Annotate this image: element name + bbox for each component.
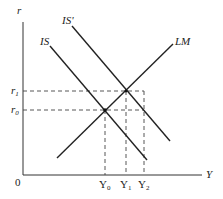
x-axis-label: Y [206,168,214,180]
is-label: IS [39,35,50,47]
y2-label: Y2 [138,178,150,192]
lm-label: LM [174,35,191,47]
origin-label: 0 [15,176,21,188]
is-curve [50,46,147,160]
r0-label: r0 [11,103,19,117]
y1-label: Y1 [120,178,132,192]
is-prime-curve [72,26,170,141]
is-prime-label: IS' [61,14,74,26]
r1-label: r1 [11,84,19,98]
lm-curve [57,44,173,158]
islm-diagram: r Y 0 IS IS' LM r1 r0 Y0 Y1 Y2 [0,0,223,199]
equilibrium-e1 [125,90,128,93]
y0-label: Y0 [99,178,111,192]
equilibrium-e0 [103,108,107,112]
y-axis-label: r [17,4,22,16]
